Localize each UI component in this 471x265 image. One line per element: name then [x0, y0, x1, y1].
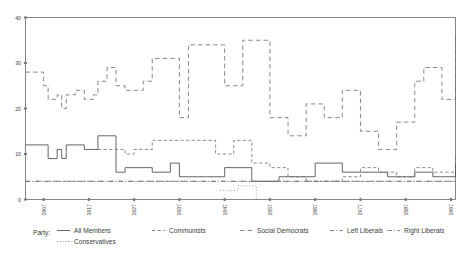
x-tick-label: 1937: [176, 204, 182, 216]
chart-canvas: 010203040 190719171927193719471957196719…: [0, 0, 471, 265]
party-representation-step-chart: 010203040 190719171927193719471957196719…: [0, 0, 471, 265]
legend-label-all-members: All Members: [74, 227, 111, 234]
y-tick-label: 30: [15, 60, 21, 66]
x-tick-label: 1997: [448, 204, 454, 216]
y-tick-label: 0: [18, 197, 21, 203]
legend-label-conservatives: Conservatives: [74, 238, 116, 245]
x-tick-label: 1977: [357, 204, 363, 216]
legend-label-right-liberals: Right Liberals: [404, 227, 445, 235]
x-tick-label: 1907: [41, 204, 47, 216]
x-tick-label: 1947: [222, 204, 228, 216]
series-layer: [26, 36, 456, 200]
series-line-all-members: [26, 136, 456, 182]
legend-title: Party:: [33, 229, 50, 237]
chart-legend: Party: All MembersCommunistsSocial Democ…: [33, 227, 445, 245]
legend-label-social-democrats: Social Democrats: [257, 227, 309, 234]
legend-label-left-liberals: Left Liberals: [347, 227, 384, 234]
x-tick-label: 1927: [131, 204, 137, 216]
y-tick-label: 20: [15, 106, 21, 112]
legend-label-communists: Communists: [169, 227, 206, 234]
x-tick-label: 1967: [312, 204, 318, 216]
series-line-communists: [98, 140, 456, 181]
y-tick-label: 10: [15, 151, 21, 157]
series-line-conservatives: [220, 186, 256, 200]
x-tick-label: 1957: [267, 204, 273, 216]
y-tick-label: 40: [15, 15, 21, 21]
x-axis: 1907191719271937194719571967197719871997: [41, 198, 454, 216]
x-tick-label: 1987: [403, 204, 409, 216]
x-tick-label: 1917: [86, 204, 92, 216]
series-line-social-democrats: [26, 36, 456, 150]
